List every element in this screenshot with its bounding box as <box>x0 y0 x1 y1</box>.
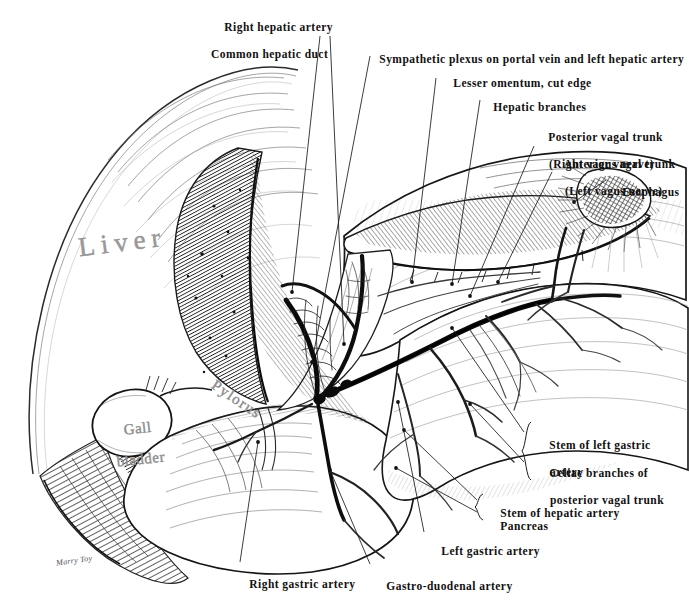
callout-line: Posterior vagal trunk <box>548 131 663 143</box>
callout-line: Right hepatic artery <box>224 21 333 33</box>
callout-line: Common hepatic duct <box>211 48 333 62</box>
callout-line: Esophagus <box>622 186 679 198</box>
callout-right-hepatic-artery: Right hepatic artery Common hepatic duct <box>211 7 333 88</box>
callout-line: Stem of left gastric <box>549 439 650 451</box>
gall-bladder-label-line2: bladder <box>116 449 166 470</box>
anatomical-plate: Right hepatic artery Common hepatic duct… <box>0 0 689 604</box>
callout-line: Right gastric artery <box>249 578 355 590</box>
organ-label-gall-bladder: Gall bladder <box>94 403 167 488</box>
callout-gastro-duodenal-artery: Gastro-duodenal artery <box>373 566 513 604</box>
callout-line: Anterior vagal trunk <box>564 158 676 170</box>
callout-line: Hepatic branches <box>493 101 586 113</box>
callout-line: Celiac branches of <box>549 467 648 479</box>
callout-line: Left gastric artery <box>441 545 540 557</box>
callout-esophagus: Esophagus <box>609 172 679 213</box>
callout-right-gastric-artery: Right gastric artery <box>236 564 355 604</box>
callout-line: Pancreas <box>500 520 548 532</box>
callout-line: Gastro-duodenal artery <box>386 580 512 592</box>
gall-bladder-label-line1: Gall <box>123 419 152 438</box>
